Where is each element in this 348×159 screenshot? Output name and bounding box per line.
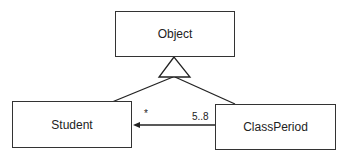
class-classperiod: ClassPeriod [215, 104, 336, 150]
arrowhead-icon [133, 122, 140, 128]
generalization-line-classperiod [175, 77, 235, 104]
class-classperiod-label: ClassPeriod [243, 120, 308, 134]
student-multiplicity: * [144, 108, 148, 119]
inheritance-triangle-icon [159, 57, 190, 77]
class-object-label: Object [158, 27, 193, 41]
generalization-line-student [112, 77, 173, 102]
classperiod-multiplicity: 5..8 [192, 111, 209, 122]
class-student-label: Student [51, 118, 92, 132]
class-object: Object [115, 11, 235, 57]
class-student: Student [12, 101, 132, 148]
